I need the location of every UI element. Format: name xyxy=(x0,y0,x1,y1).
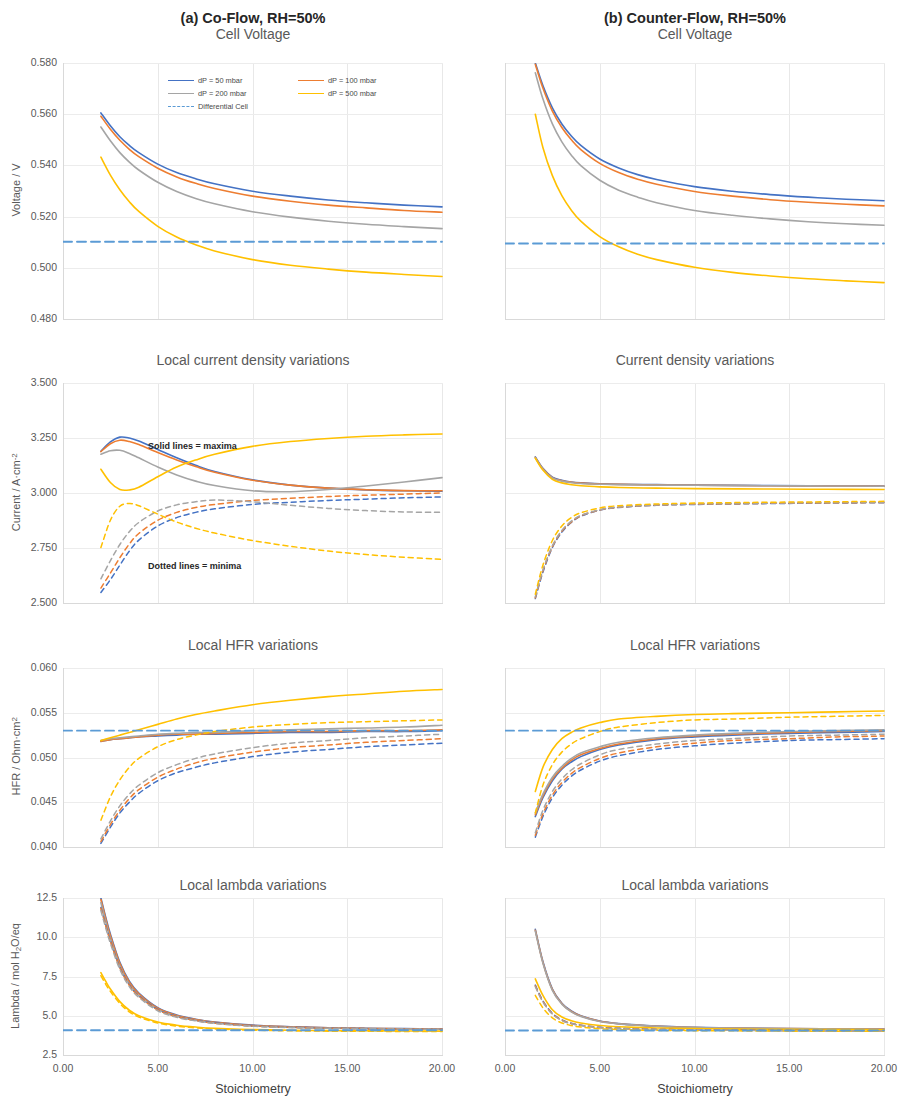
panel-counter-lambda: Local lambda variations0.005.0010.0015.0… xyxy=(0,0,901,1119)
figure-root: (a) Co-Flow, RH=50% (b) Counter-Flow, RH… xyxy=(0,0,901,1119)
x-tick-label: 10.00 xyxy=(667,1062,723,1074)
x-tick-label: 5.00 xyxy=(572,1062,628,1074)
series-line xyxy=(535,979,884,1030)
series-line xyxy=(535,931,884,1029)
curves-counter-lambda xyxy=(505,898,885,1056)
series-line xyxy=(535,929,884,1029)
x-tick-label: 20.00 xyxy=(856,1062,901,1074)
series-line xyxy=(535,930,884,1029)
x-axis-label-counter-lambda: Stoichiometry xyxy=(505,1082,885,1096)
x-tick-label: 0.00 xyxy=(477,1062,533,1074)
plot-area-counter-lambda xyxy=(505,898,885,1056)
x-tick-label: 15.00 xyxy=(761,1062,817,1074)
panel-title-counter-lambda: Local lambda variations xyxy=(505,877,885,893)
